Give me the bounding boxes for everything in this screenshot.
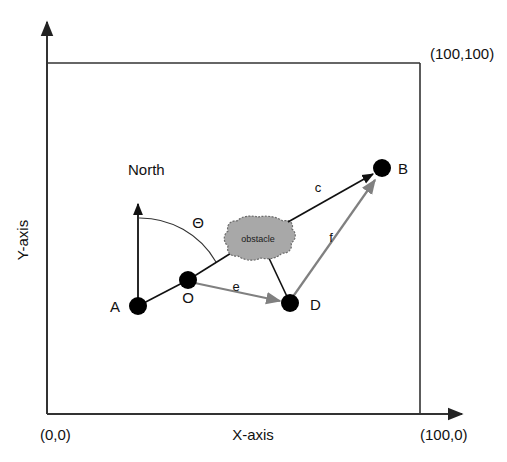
node-a-label: A: [110, 298, 120, 315]
x-max-coordinate-label: (100,0): [420, 426, 468, 443]
heading-angle-group: Θ: [138, 214, 216, 262]
vector-e-group: e: [190, 279, 280, 301]
theta-arc: [138, 218, 216, 262]
obstacle-group: obstacle: [224, 216, 295, 260]
theta-label: Θ: [192, 214, 204, 231]
vector-c-group: c: [288, 174, 373, 222]
vector-f-label: f: [329, 230, 333, 245]
node-b[interactable]: [373, 159, 391, 177]
node-b-label: B: [398, 160, 408, 177]
navigation-diagram: X-axis Y-axis (0,0) (100,0) (100,100) No…: [0, 0, 507, 462]
node-o-label: O: [182, 289, 194, 306]
x-axis-label: X-axis: [232, 426, 274, 443]
node-d-label: D: [310, 296, 321, 313]
figure-canvas: X-axis Y-axis (0,0) (100,0) (100,100) No…: [0, 0, 507, 462]
north-label: North: [128, 161, 165, 178]
node-a[interactable]: [129, 297, 147, 315]
north-arrow-group: North: [128, 161, 165, 306]
vector-f-arrow: [292, 180, 375, 298]
vector-c-arrow: [288, 174, 373, 222]
obstacle-label: obstacle: [241, 234, 275, 244]
vector-e-label: e: [232, 279, 239, 294]
origin-coordinate-label: (0,0): [40, 426, 71, 443]
vector-c-label: c: [315, 180, 322, 195]
top-right-coordinate-label: (100,100): [430, 45, 494, 62]
vector-f-group: f: [292, 180, 375, 298]
node-d[interactable]: [281, 294, 299, 312]
y-axis-label: Y-axis: [14, 220, 31, 260]
node-o[interactable]: [179, 271, 197, 289]
